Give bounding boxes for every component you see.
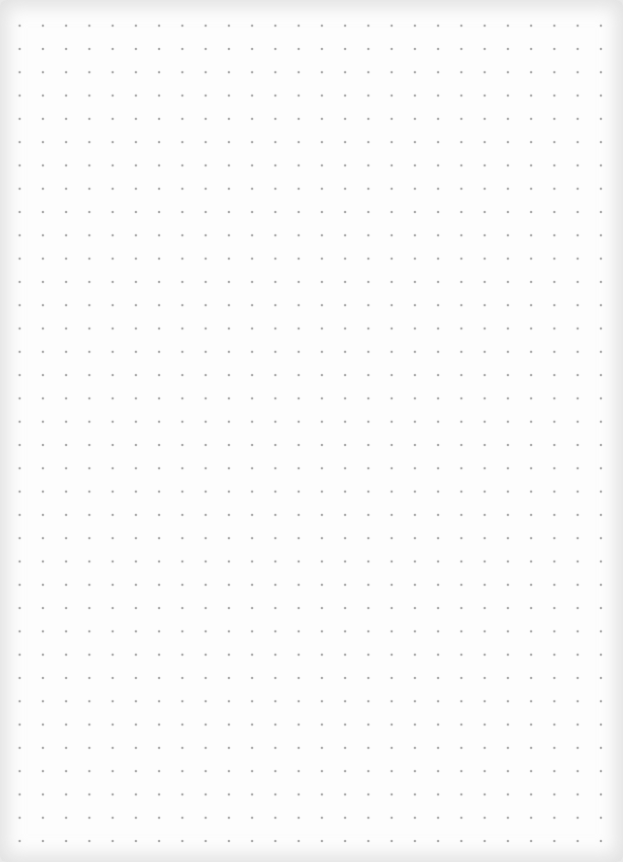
dot-grid-paper-sheet (0, 0, 623, 862)
dot-grid-pattern (8, 14, 612, 852)
